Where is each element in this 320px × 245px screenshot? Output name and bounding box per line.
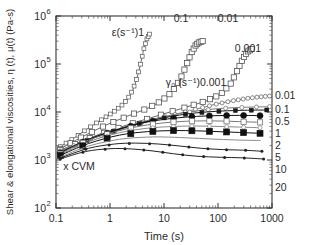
- y-tick-label: 104: [34, 103, 50, 118]
- marker-open-square-small: [127, 95, 131, 99]
- marker-filled-dot: [81, 151, 84, 154]
- y-tick-base: 10: [34, 154, 46, 166]
- marker-open-circle: [258, 126, 262, 130]
- marker-open-square: [89, 129, 94, 134]
- marker-filled-dot: [181, 153, 184, 156]
- marker-open-square-small: [124, 100, 128, 104]
- marker-filled-dot: [59, 157, 62, 160]
- marker-open-square: [185, 61, 190, 66]
- marker-filled-dot: [108, 143, 111, 146]
- marker-open-square-small: [120, 103, 124, 107]
- marker-filled-circle: [241, 112, 247, 118]
- marker-filled-square: [150, 128, 156, 134]
- marker-filled-dot: [84, 148, 87, 151]
- marker-open-square-small: [89, 125, 93, 129]
- marker-filled-square: [257, 130, 263, 136]
- marker-open-square-small: [142, 47, 146, 51]
- marker-filled-dot: [202, 155, 205, 158]
- marker-open-square: [156, 100, 161, 105]
- marker-open-square: [182, 105, 187, 110]
- marker-open-circle: [259, 95, 263, 99]
- marker-open-circle: [224, 106, 228, 110]
- marker-open-square: [231, 75, 236, 80]
- marker-open-circle: [226, 100, 230, 104]
- marker-open-circle: [220, 101, 224, 105]
- y-tick-label: 106: [34, 7, 50, 22]
- marker-open-square: [142, 107, 147, 112]
- marker-filled-square-small: [217, 109, 221, 113]
- marker-open-square: [131, 111, 136, 116]
- marker-open-square-small: [148, 32, 152, 36]
- x-tick-label: 10: [158, 212, 170, 224]
- annotation-elongational-rate-0.001: 0.001: [235, 42, 261, 54]
- marker-open-square-small: [144, 42, 148, 46]
- marker-filled-circle: [257, 113, 263, 119]
- y-tick-base: 10: [34, 58, 46, 70]
- marker-filled-square: [206, 128, 212, 134]
- marker-open-circle: [268, 94, 272, 98]
- marker-open-square-small: [95, 121, 99, 125]
- right-label-10: 10: [275, 163, 287, 175]
- marker-filled-dot: [161, 151, 164, 154]
- marker-filled-square-small: [249, 108, 253, 112]
- marker-filled-square-small: [200, 110, 204, 114]
- annotation-elongational-rate-0.1: 0.1: [174, 12, 189, 24]
- right-label-0.5: 0.5: [275, 115, 290, 127]
- marker-open-square: [200, 38, 205, 43]
- marker-filled-square: [189, 128, 195, 134]
- y-tick-base: 10: [34, 106, 46, 118]
- marker-filled-square: [128, 131, 134, 137]
- annotation-elongational-rate-0.01: 0.01: [218, 12, 239, 24]
- y-tick-exponent: 2: [47, 199, 51, 208]
- y-tick-base: 10: [34, 10, 46, 22]
- x-tick-label: 0.1: [49, 212, 64, 224]
- right-label-5: 5: [275, 151, 281, 163]
- marker-open-square: [150, 103, 155, 108]
- marker-open-square: [182, 67, 187, 72]
- series-shear-20: [59, 147, 265, 160]
- marker-open-square-small: [108, 112, 112, 116]
- marker-open-circle: [240, 105, 244, 109]
- y-tick-exponent: 6: [47, 7, 51, 16]
- marker-open-square-small: [64, 141, 68, 145]
- annotation-cvm-marker: x CVM: [63, 160, 95, 172]
- marker-open-circle: [214, 102, 218, 106]
- marker-open-square-small: [137, 70, 141, 74]
- marker-filled-dot: [262, 157, 265, 160]
- right-label-0.1: 0.1: [275, 103, 290, 115]
- y-tick-label: 103: [34, 151, 50, 166]
- marker-open-circle: [242, 125, 246, 129]
- series-shear-2: [57, 128, 263, 159]
- marker-open-square-small: [140, 54, 144, 58]
- marker-open-circle: [207, 124, 211, 128]
- marker-filled-dot: [168, 144, 171, 147]
- marker-open-square: [237, 63, 242, 68]
- right-label-2: 2: [275, 139, 281, 151]
- marker-filled-square-small: [265, 108, 269, 112]
- x-tick-label: 1000: [260, 212, 284, 224]
- marker-filled-dot: [244, 149, 247, 152]
- marker-open-square-small: [132, 84, 136, 88]
- marker-filled-dot: [148, 142, 151, 145]
- marker-open-square: [207, 118, 212, 123]
- y-tick-exponent: 5: [47, 55, 51, 64]
- marker-open-square-small: [139, 62, 143, 66]
- marker-open-circle: [206, 108, 210, 112]
- marker-filled-dot: [104, 148, 107, 151]
- marker-filled-square: [224, 129, 230, 135]
- marker-open-square: [189, 119, 194, 124]
- x-tick-label: 100: [209, 212, 227, 224]
- marker-open-square: [187, 55, 192, 60]
- marker-open-square: [228, 81, 233, 86]
- marker-open-circle: [225, 125, 229, 129]
- y-tick-label: 105: [34, 55, 50, 70]
- marker-filled-dot: [124, 147, 127, 150]
- marker-filled-dot: [260, 150, 263, 153]
- marker-open-square-small: [100, 118, 104, 122]
- marker-open-circle: [231, 99, 235, 103]
- marker-filled-dot: [206, 147, 209, 150]
- right-label-0.01: 0.01: [275, 89, 296, 101]
- y-tick-exponent: 4: [47, 103, 51, 112]
- marker-open-square-small: [135, 78, 139, 82]
- marker-open-square: [191, 102, 196, 107]
